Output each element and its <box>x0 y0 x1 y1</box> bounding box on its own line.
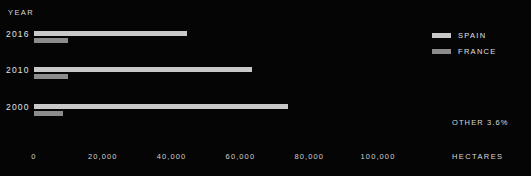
x-tick-label: 80,000 <box>294 152 324 161</box>
y-axis-title: YEAR <box>8 8 34 17</box>
year-label: 2000 <box>6 102 32 112</box>
year-label: 2016 <box>6 29 32 39</box>
x-tick-label: 20,000 <box>88 152 118 161</box>
bar-spain-2010 <box>34 67 252 72</box>
legend-item-spain[interactable]: SPAIN <box>432 27 497 43</box>
legend-swatch-icon <box>432 33 451 38</box>
legend: SPAINFRANCE <box>432 27 497 59</box>
x-tick-label: 0 <box>31 152 36 161</box>
legend-swatch-icon <box>432 49 451 54</box>
legend-item-france[interactable]: FRANCE <box>432 43 497 59</box>
x-axis-title: HECTARES <box>452 152 503 161</box>
bar-france-2000 <box>34 111 63 116</box>
bar-france-2016 <box>34 38 68 43</box>
other-annotation: OTHER 3.6% <box>452 118 508 127</box>
bar-france-2010 <box>34 74 68 79</box>
bar-spain-2000 <box>34 104 288 109</box>
x-tick-label: 40,000 <box>157 152 187 161</box>
year-label: 2010 <box>6 65 32 75</box>
legend-label: FRANCE <box>458 47 497 56</box>
x-tick-label: 100,000 <box>361 152 396 161</box>
x-tick-label: 60,000 <box>226 152 256 161</box>
bar-chart: YEAR HECTARES 201620102000 020,00040,000… <box>0 0 531 176</box>
bar-spain-2016 <box>34 31 187 36</box>
legend-label: SPAIN <box>458 31 486 40</box>
